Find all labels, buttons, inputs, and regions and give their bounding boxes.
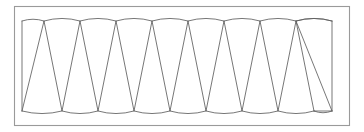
- outer-frame-rectangle: [15, 7, 350, 126]
- figure-root: [0, 0, 364, 132]
- diagram-canvas: [0, 0, 364, 132]
